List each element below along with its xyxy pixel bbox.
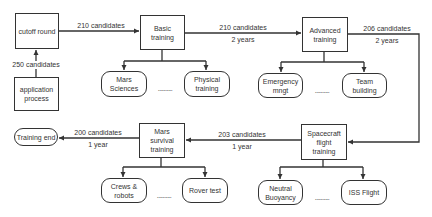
edge-label-application-candidates: 250 candidates [11,61,60,69]
edge-label-cutoff-candidates: 210 candidates [77,22,124,30]
subtopic-rover-test: Rover test [182,178,228,203]
stage-training-end: Training end [14,128,58,146]
stage-spacecraft-flight-training: Spacecraft flight training [301,124,347,160]
edge-label-basic-candidates: 210 candidates [219,24,266,32]
stage-advanced-training: Advanced training [302,17,348,52]
ellipsis-spacecraft: .......... [315,194,329,202]
ellipsis-survival: .......... [157,192,171,200]
stage-cutoff-round: cutoff round [15,13,59,49]
ellipsis-advanced: .......... [315,87,329,95]
edge-label-advanced-duration: 2 years [376,37,399,45]
subtopic-neutral-buoyancy: Neutral Buoyancy [258,180,303,205]
edge-label-basic-duration: 2 years [232,36,255,44]
subtopic-physical-training: Physical training [184,71,230,97]
edge-label-survival-candidates: 200 candidates [74,129,121,137]
training-flow-diagram: cutoff round application process Basic t… [0,0,432,217]
edge-label-spacecraft-candidates: 203 candidates [218,131,265,139]
edge-label-advanced-candidates: 206 candidates [363,25,410,33]
subtopic-iss-flight: ISS Flight [341,180,387,205]
subtopic-crews-robots: Crews & robots [101,178,147,203]
subtopic-emergency-mngt: Emergency mngt [258,73,303,98]
stage-basic-training: Basic training [140,15,185,50]
stage-mars-survival-training: Mars survival training [139,123,185,158]
ellipsis-basic: .......... [158,85,172,93]
stage-application-process: application process [14,77,59,111]
subtopic-team-building: Team building [342,73,387,98]
edge-label-spacecraft-duration: 1 year [232,143,251,151]
edge-label-survival-duration: 1 year [88,141,107,149]
subtopic-mars-sciences: Mars Sciences [101,71,147,97]
